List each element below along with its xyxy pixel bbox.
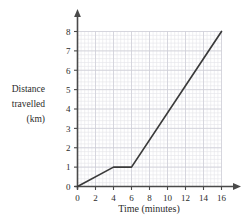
y-axis-title-line: Distance [12,84,45,94]
x-tick-label: 6 [129,193,134,203]
x-tick-label: 4 [111,193,116,203]
y-axis-title-line: travelled [12,99,45,109]
y-tick-label: 3 [66,124,71,134]
chart-canvas: 0246810121416 012345678 Distancetravelle… [0,0,251,222]
x-axis-title: Time (minutes) [118,203,180,215]
y-tick-label: 8 [66,27,71,37]
y-tick-label: 1 [66,162,71,172]
y-tick-label: 2 [66,143,71,153]
x-tick-label: 12 [181,193,190,203]
x-tick-label: 16 [217,193,227,203]
y-axis-tick-labels: 012345678 [66,27,71,192]
y-tick-label: 6 [66,66,71,76]
x-tick-label: 14 [199,193,209,203]
x-tick-label: 2 [93,193,98,203]
chart-background [0,0,251,222]
x-tick-label: 0 [75,193,80,203]
y-axis-title-line: (km) [27,114,45,125]
y-tick-label: 4 [66,104,71,114]
y-tick-label: 5 [66,85,71,95]
x-tick-label: 8 [147,193,152,203]
y-tick-label: 0 [66,182,71,192]
distance-time-chart: 0246810121416 012345678 Distancetravelle… [0,0,251,222]
y-tick-label: 7 [66,46,71,56]
x-tick-label: 10 [163,193,173,203]
